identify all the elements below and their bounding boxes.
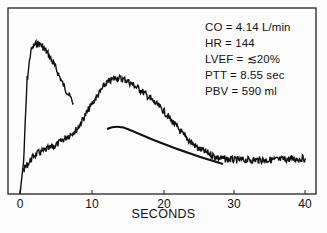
plot-frame bbox=[8, 8, 316, 194]
annotation-pbv: PBV = 590 ml bbox=[205, 83, 277, 99]
fitted-smooth-curve bbox=[107, 127, 223, 164]
annotation-lvef: LVEF = ≲20% bbox=[205, 51, 280, 67]
annotation-hr: HR = 144 bbox=[205, 35, 255, 51]
annotation-co: CO = 4.14 L/min bbox=[205, 19, 291, 35]
annotation-ptt: PTT = 8.55 sec bbox=[205, 67, 285, 83]
x-axis-label: SECONDS bbox=[0, 207, 327, 221]
first-pass-curve bbox=[20, 41, 74, 194]
